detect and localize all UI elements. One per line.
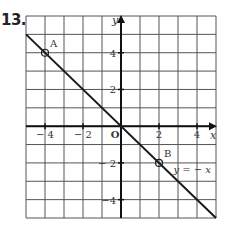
point-label-a: A bbox=[49, 38, 58, 49]
plot-points: AB bbox=[42, 38, 172, 167]
y-tick-label: 2 bbox=[110, 84, 116, 95]
x-tick-label: 4 bbox=[194, 129, 200, 140]
y-tick-label: − 2 bbox=[98, 158, 116, 169]
origin-label: O bbox=[111, 129, 120, 140]
equation-label: y = − x bbox=[172, 164, 211, 175]
y-axis-label: y bbox=[111, 14, 119, 27]
y-tick-label: 4 bbox=[110, 48, 116, 59]
x-tick-label: 2 bbox=[156, 129, 162, 140]
x-tick-label: − 4 bbox=[36, 129, 54, 140]
x-tick-label: − 2 bbox=[74, 129, 92, 140]
y-tick-label: −4 bbox=[101, 195, 116, 206]
coordinate-plane-chart: − 4− 22442− 2−4O AB xyy = − x bbox=[0, 0, 229, 229]
point-label-b: B bbox=[164, 148, 171, 159]
x-axis-label: x bbox=[210, 129, 217, 142]
